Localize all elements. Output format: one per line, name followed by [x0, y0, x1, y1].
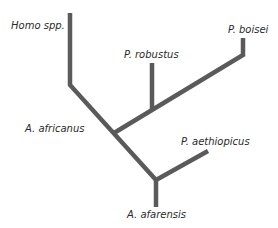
label-africanus: A. africanus — [25, 124, 84, 134]
label-boisei: P. boisei — [228, 25, 268, 35]
branch-homo — [70, 13, 156, 180]
label-afarensis: A. afarensis — [127, 210, 186, 220]
label-robustus: P. robustus — [124, 50, 179, 60]
label-homo: Homo spp. — [11, 21, 65, 31]
branch-aethiopicus — [156, 151, 208, 180]
label-aethiopicus: P. aethiopicus — [181, 137, 250, 147]
cladogram: Homo spp. P. robustus P. boisei A. afric… — [0, 0, 278, 228]
